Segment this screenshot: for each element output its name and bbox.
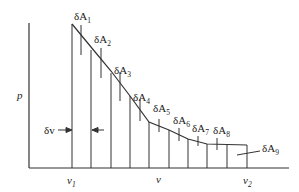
x-label-v: v: [156, 173, 161, 185]
strip-labels: δA1 δA2 δA3 δA4 δA5 δA6 δA7 δA8 δA9: [74, 10, 279, 157]
delta-v-arrows: [58, 128, 104, 133]
svg-text:δA1: δA1: [74, 10, 91, 25]
p-v-diagram: p δv δA1 δA2 δA3 δA4 δA5 δA6 δA7 δA8 δA9…: [0, 0, 299, 192]
x-label-v2: v2: [243, 174, 252, 189]
svg-text:δA6: δA6: [173, 114, 190, 129]
svg-text:δA3: δA3: [114, 64, 131, 79]
svg-text:δA5: δA5: [153, 102, 170, 117]
svg-text:δA8: δA8: [213, 124, 230, 139]
y-axis-label: p: [16, 89, 23, 101]
svg-text:δA7: δA7: [192, 122, 209, 137]
delta-a9-leader: [237, 151, 260, 155]
svg-text:δA9: δA9: [262, 142, 279, 157]
delta-v-label: δv: [44, 124, 55, 136]
strip-lines: [72, 24, 247, 168]
svg-text:δA2: δA2: [94, 33, 111, 48]
x-label-v1: v1: [67, 174, 76, 189]
